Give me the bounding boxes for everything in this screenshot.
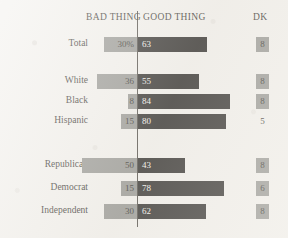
value-bad-thing: 36	[97, 76, 134, 86]
row-label-independent: Independent	[0, 205, 88, 215]
row-label-hispanic: Hispanic	[0, 115, 88, 125]
column-header-bad-thing: BAD THING	[86, 12, 141, 22]
row-label-black: Black	[0, 95, 88, 105]
chart-row: Total30%638	[0, 37, 288, 52]
value-bad-thing: 30%	[104, 39, 134, 49]
value-good-thing: 55	[142, 76, 151, 86]
value-dk: 8	[256, 206, 269, 216]
chart-row: Hispanic15805	[0, 114, 288, 129]
value-good-thing: 78	[142, 183, 151, 193]
chart-row: Republican50438	[0, 158, 288, 173]
value-bad-thing: 15	[121, 116, 135, 126]
column-header-good-thing: GOOD THING	[143, 12, 206, 22]
value-good-thing: 80	[142, 116, 151, 126]
value-dk: 8	[256, 96, 269, 106]
value-bad-thing: 8	[128, 96, 134, 106]
value-good-thing: 63	[142, 39, 151, 49]
column-header-dk: DK	[253, 12, 267, 22]
chart-row: Black8848	[0, 94, 288, 109]
value-dk: 8	[256, 76, 269, 86]
bar-good-thing	[138, 114, 226, 129]
value-bad-thing: 50	[82, 160, 134, 170]
value-dk: 6	[256, 183, 269, 193]
value-bad-thing: 30	[104, 206, 134, 216]
value-bad-thing: 15	[121, 183, 135, 193]
row-label-republican: Republican	[0, 159, 88, 169]
value-good-thing: 84	[142, 96, 151, 106]
value-good-thing: 43	[142, 160, 151, 170]
value-good-thing: 62	[142, 206, 151, 216]
chart-row: White36558	[0, 74, 288, 89]
chart-row: Independent30628	[0, 204, 288, 219]
row-label-white: White	[0, 75, 88, 85]
bar-good-thing	[138, 94, 230, 109]
chart-row: Democrat15786	[0, 181, 288, 196]
value-dk: 8	[256, 160, 269, 170]
value-dk: 5	[256, 116, 269, 126]
diverging-bar-chart: BAD THING GOOD THING DK Total30%638White…	[0, 0, 288, 238]
row-label-total: Total	[0, 38, 88, 48]
center-axis-line	[137, 11, 138, 227]
value-dk: 8	[256, 39, 269, 49]
row-label-democrat: Democrat	[0, 182, 88, 192]
